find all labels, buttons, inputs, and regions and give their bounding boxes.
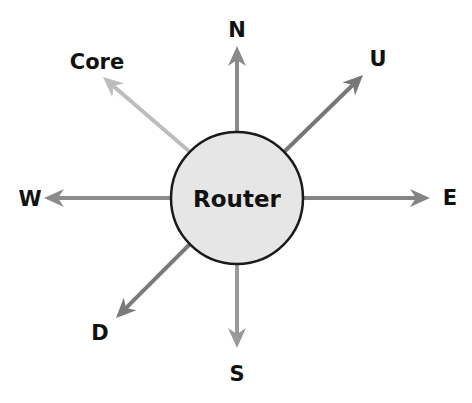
arrow-west (44, 189, 171, 207)
arrow-shaft (126, 244, 190, 308)
label-south: S (229, 364, 244, 385)
arrow-shaft (114, 86, 190, 152)
label-core: Core (70, 52, 124, 73)
label-west: W (18, 189, 41, 210)
label-down: D (91, 323, 108, 344)
label-north: N (228, 20, 246, 41)
router-diagram: Router N U E S D W Core (0, 0, 472, 403)
arrow-core (103, 77, 190, 152)
router-label: Router (193, 188, 281, 211)
arrow-up (284, 75, 363, 152)
arrow-down (116, 244, 190, 318)
arrow-shaft (284, 85, 353, 152)
arrow-north (228, 46, 246, 132)
label-east: E (443, 188, 457, 209)
label-up: U (369, 49, 386, 70)
arrow-south (228, 264, 246, 348)
arrow-east (303, 189, 430, 207)
